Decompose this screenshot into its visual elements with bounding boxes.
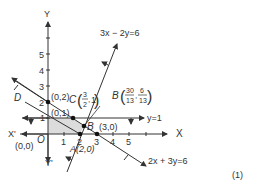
2x3y-direction-tick-right <box>124 155 128 160</box>
x-tick-4: 4 <box>110 137 115 147</box>
b-comma: , <box>135 91 137 100</box>
equation-3x-2y: 3x − 2y=6 <box>100 28 140 38</box>
y-tick-2: 2 <box>39 98 44 108</box>
label-d: D <box>14 92 21 103</box>
label-b: B <box>112 90 119 101</box>
3x2y-direction-arrow <box>102 62 108 65</box>
x-neg-label: X' <box>8 129 16 139</box>
x-tick-3: 3 <box>94 137 99 147</box>
x-tick-1: 1 <box>61 137 66 147</box>
feasible-region-diagram: Y X X' Y' O (0,0) 1 2 3 4 5 1 2 3 4 5 (0… <box>0 0 257 181</box>
equation-2x-3y: 2x + 3y=6 <box>148 156 188 166</box>
point-b <box>82 124 87 129</box>
3x2y-direction-arrow-lower <box>66 157 72 160</box>
figure-number: (1) <box>232 170 243 180</box>
label-0-1: (0,1) <box>51 108 70 118</box>
origin-label: O <box>37 134 45 145</box>
b-num-x: 30 <box>126 87 134 94</box>
label-3-0: (3,0) <box>99 122 118 132</box>
label-c: C <box>69 94 77 105</box>
y-tick-1: 1 <box>40 113 45 123</box>
c-comma: , <box>88 95 90 104</box>
y-tick-5: 5 <box>39 50 44 60</box>
label-b-lower: B <box>87 121 94 132</box>
point-0-2 <box>46 100 51 105</box>
y-neg-label: Y' <box>45 158 53 168</box>
label-0-2: (0,2) <box>51 92 70 102</box>
c-num-x: 3 <box>83 91 87 98</box>
b-den-x: 13 <box>126 97 134 104</box>
point-a <box>78 132 83 137</box>
2x3y-direction-tick <box>14 85 18 90</box>
x-axis-label: X <box>176 128 183 139</box>
y-axis-label: Y <box>44 9 50 19</box>
b-paren-close: ) <box>147 88 152 105</box>
c-den-x: 2 <box>83 101 87 108</box>
point-3-0 <box>95 132 100 137</box>
b-den-y: 13 <box>139 97 147 104</box>
c-paren-close: ) <box>94 92 99 109</box>
b-num-y: 6 <box>140 87 144 94</box>
point-c <box>71 116 76 121</box>
label-a: A(2,0) <box>69 144 95 154</box>
origin-coord: (0,0) <box>15 141 34 151</box>
y-tick-3: 3 <box>39 82 44 92</box>
y-tick-4: 4 <box>39 66 44 76</box>
x-tick-5: 5 <box>126 137 131 147</box>
equation-y1: y=1 <box>147 113 162 123</box>
